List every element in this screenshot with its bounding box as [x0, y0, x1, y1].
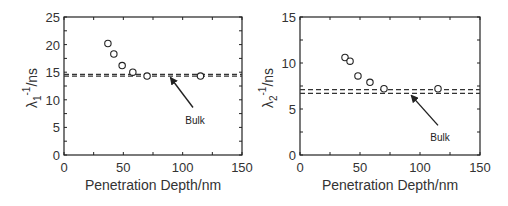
y-tick-label: 5: [53, 120, 60, 135]
left-plot-lambda1: 0501001500510152025Penetration Depth/nmλ…: [21, 10, 253, 193]
x-tick-label: 50: [116, 160, 130, 175]
x-tick-label: 150: [469, 160, 491, 175]
data-point: [197, 73, 203, 79]
y-axis-unit: /ns: [24, 68, 40, 87]
bulk-arrow: [411, 95, 438, 125]
x-tick-label: 50: [353, 160, 367, 175]
y-axis-title: λ2-1/ns: [257, 68, 279, 108]
y-axis-symbol: λ: [260, 101, 276, 108]
x-tick-label: 100: [172, 160, 194, 175]
y-tick-label: 10: [46, 93, 60, 108]
data-point: [381, 86, 387, 92]
y-axis-subscript: 1: [32, 95, 43, 101]
plot-frame: [64, 17, 242, 155]
data-point: [130, 69, 136, 75]
y-tick-label: 10: [282, 56, 296, 71]
x-tick-label: 0: [296, 160, 303, 175]
y-tick-label: 5: [289, 102, 296, 117]
y-tick-label: 0: [53, 148, 60, 163]
y-axis-symbol: λ: [24, 101, 40, 108]
y-tick-label: 15: [282, 10, 296, 25]
plot-frame: [300, 17, 480, 155]
x-tick-label: 150: [231, 160, 253, 175]
data-point: [355, 73, 361, 79]
y-tick-label: 25: [46, 10, 60, 25]
data-point: [144, 73, 150, 79]
data-point: [111, 51, 117, 57]
right-plot-lambda2: 050100150051015Penetration Depth/nmλ2-1/…: [257, 10, 491, 193]
y-axis-subscript: 2: [268, 95, 279, 101]
data-point: [119, 62, 125, 68]
y-axis-unit: /ns: [260, 68, 276, 87]
x-axis-title: Penetration Depth/nm: [85, 177, 221, 193]
data-point: [347, 58, 353, 64]
chart-figure: 0501001500510152025Penetration Depth/nmλ…: [0, 0, 508, 206]
bulk-arrow: [170, 78, 193, 108]
y-axis-title: λ1-1/ns: [21, 68, 43, 108]
x-axis-title: Penetration Depth/nm: [322, 177, 458, 193]
y-tick-label: 15: [46, 65, 60, 80]
x-tick-label: 0: [60, 160, 67, 175]
bulk-label: Bulk: [430, 132, 450, 143]
data-point: [367, 79, 373, 85]
x-tick-label: 100: [409, 160, 431, 175]
y-tick-label: 20: [46, 38, 60, 53]
y-tick-label: 0: [289, 148, 296, 163]
bulk-label: Bulk: [185, 115, 205, 126]
data-point: [105, 40, 111, 46]
data-point: [435, 86, 441, 92]
